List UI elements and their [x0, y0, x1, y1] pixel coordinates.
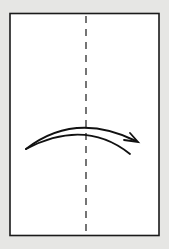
paper-sheet	[10, 14, 159, 236]
origami-fold-diagram	[0, 0, 169, 249]
